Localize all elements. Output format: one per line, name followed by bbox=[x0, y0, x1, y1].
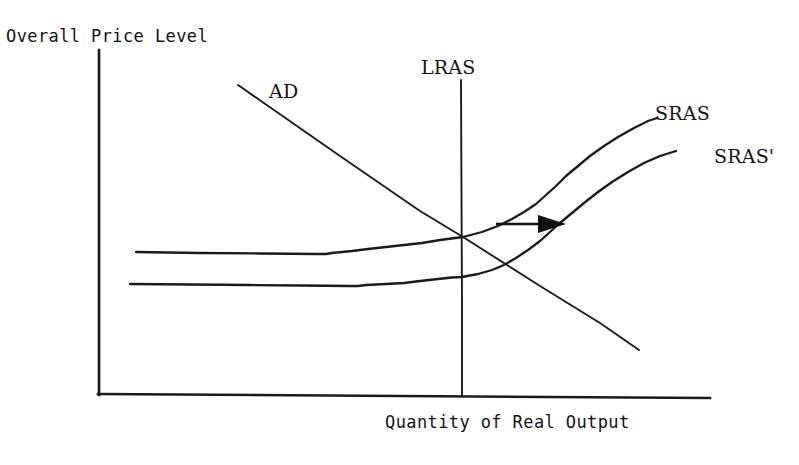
x-axis bbox=[98, 394, 710, 398]
x-axis-title: Quantity of Real Output bbox=[385, 412, 630, 432]
sras-prime-curve bbox=[130, 151, 676, 286]
ad-as-figure bbox=[0, 0, 799, 465]
lras-curve-label: LRAS bbox=[421, 56, 475, 78]
sras-curve-label: SRAS bbox=[655, 102, 710, 124]
ad-curve-label: AD bbox=[269, 80, 298, 102]
diagram-canvas: Overall Price Level Quantity of Real Out… bbox=[0, 0, 799, 465]
sras-curve bbox=[136, 118, 657, 254]
sras-prime-curve-label: SRAS' bbox=[714, 145, 774, 167]
ad-curve bbox=[238, 85, 639, 350]
y-axis-title: Overall Price Level bbox=[6, 26, 208, 46]
